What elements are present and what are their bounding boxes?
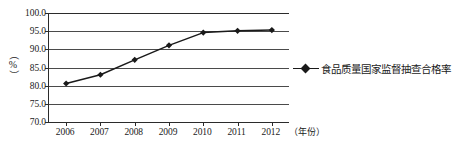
- data-point-marker: [234, 28, 240, 34]
- line-chart: （ % ） 100.0 95.0 90.0 85.0 80.0 75.0 70.…: [0, 0, 467, 157]
- data-series: [49, 13, 289, 122]
- x-tick-label: 2006: [56, 126, 75, 138]
- legend-marker-icon: [293, 64, 319, 74]
- series-line: [66, 30, 272, 83]
- legend-label: 食品质量国家监督抽查合格率: [321, 63, 451, 75]
- x-tick-label: 2010: [193, 126, 212, 138]
- y-tick: [45, 122, 49, 123]
- data-point-marker: [166, 42, 172, 48]
- x-tick-label: 2007: [90, 126, 109, 138]
- data-point-marker: [97, 72, 103, 78]
- plot-area: [48, 13, 289, 123]
- x-tick-label: 2008: [124, 126, 143, 138]
- y-tick-label: 85.0: [16, 63, 46, 73]
- y-tick-label: 75.0: [16, 99, 46, 109]
- data-point-marker: [132, 57, 138, 63]
- legend: 食品质量国家监督抽查合格率: [293, 61, 451, 77]
- data-point-marker: [63, 80, 69, 86]
- x-axis-tick-labels: （年份） 2006200720082009201020112012: [0, 126, 467, 140]
- y-tick-label: 100.0: [16, 8, 46, 18]
- y-tick-label: 90.0: [16, 44, 46, 54]
- x-tick-label: 2011: [227, 126, 245, 138]
- x-tick-label: 2012: [262, 126, 281, 138]
- data-point-marker: [269, 27, 275, 33]
- x-tick-label: 2009: [159, 126, 178, 138]
- data-point-marker: [200, 30, 206, 36]
- x-axis-title: （年份）: [289, 126, 325, 138]
- y-tick-label: 80.0: [16, 81, 46, 91]
- y-tick-label: 95.0: [16, 26, 46, 36]
